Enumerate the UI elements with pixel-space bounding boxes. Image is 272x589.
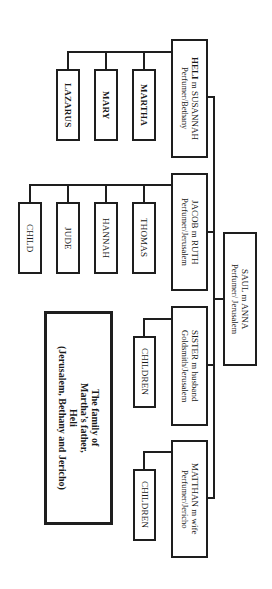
drop-lazarus (67, 51, 69, 70)
title-line-2: Martha’s father, (79, 383, 90, 453)
drop-mary (105, 51, 107, 70)
child-label-thomas: THOMAS (139, 218, 149, 257)
heli-susannah-name: HELI m SUSANNAH (190, 57, 200, 140)
title-line-4: (Jerusalem, Bethany and Jericho) (57, 346, 68, 490)
sister-children-bus (143, 318, 172, 320)
jacob-occupation: Perfumer/Jerusalem (180, 198, 190, 266)
matthan-occupation: Perfumer/Jericho (180, 470, 190, 529)
child-label-child: CHILD (25, 224, 35, 253)
child-box-matthan-children: CHILDREN (133, 469, 156, 541)
sister-husband-box: SISTER m husband Goldsmith/Jerusalem (171, 306, 208, 426)
drop-jude (67, 184, 69, 203)
child-box-sister-children: CHILDREN (133, 336, 156, 408)
drop-sister-children (143, 318, 145, 337)
jacob-ruth-box: JACOB m RUTH Perfumer/Jerusalem (171, 173, 208, 291)
sister-husband-name: SISTER m husband (190, 330, 200, 402)
title-line-3: Heli (68, 409, 79, 427)
child-box-thomas: THOMAS (132, 202, 156, 274)
child-box-mary: MARY (94, 69, 118, 141)
heli-children-bus (67, 51, 172, 53)
heli-name-bold: HELI (190, 57, 200, 80)
child-label-jude: JUDE (63, 227, 73, 250)
diagram-title-box: The family of Martha’s father, Heli (Jer… (44, 311, 113, 525)
child-box-hannah: HANNAH (94, 202, 118, 274)
child-box-child: CHILD (18, 202, 42, 274)
drop-martha (143, 51, 145, 70)
saul-anna-name: SAUL m ANNA (240, 269, 250, 329)
matthan-children-bus (143, 451, 172, 453)
heli-occupation: Perfumer/Bethany (180, 67, 190, 129)
child-box-jude: JUDE (56, 202, 80, 274)
child-label-mary: MARY (101, 91, 111, 119)
heli-susannah-box: HELI m SUSANNAH Perfumer/Bethany (171, 39, 208, 158)
child-label-matthan-children: CHILDREN (140, 481, 150, 528)
jacob-ruth-name: JACOB m RUTH (190, 200, 200, 265)
child-label-lazarus: LAZARUS (63, 83, 73, 127)
jacob-children-bus (29, 184, 172, 186)
heli-name-rest: m SUSANNAH (190, 80, 200, 141)
child-box-lazarus: LAZARUS (56, 69, 80, 141)
sister-occupation: Goldsmith/Jerusalem (180, 330, 190, 402)
saul-anna-occupation: Perfumer/ Jerusalem (230, 264, 240, 334)
matthan-wife-name: MATTHAN m wife (190, 463, 200, 535)
child-label-sister-children: CHILDREN (140, 348, 150, 395)
drop-hannah (105, 184, 107, 203)
drop-child (29, 184, 31, 203)
saul-anna-box: SAUL m ANNA Perfumer/ Jerusalem (223, 232, 257, 366)
matthan-wife-box: MATTHAN m wife Perfumer/Jericho (171, 440, 208, 558)
drop-matthan-children (143, 451, 145, 470)
child-box-martha: MARTHA (132, 69, 156, 141)
title-line-1: The family of (90, 389, 101, 446)
child-label-martha: MARTHA (139, 84, 149, 126)
child-label-hannah: HANNAH (101, 218, 111, 258)
drop-thomas (143, 184, 145, 203)
